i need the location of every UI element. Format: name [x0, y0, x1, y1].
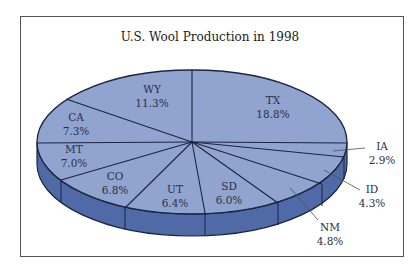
slice-value-ia: 2.9% — [369, 154, 396, 166]
slice-label-co: CO — [107, 170, 124, 182]
pie-chart: U.S. Wool Production in 1998 TX18.8%WY11… — [0, 0, 420, 274]
slice-value-ca: 7.3% — [63, 125, 90, 137]
slice-value-sd: 6.0% — [216, 194, 243, 206]
slice-label-mt: MT — [65, 143, 83, 155]
slice-value-wy: 11.3% — [135, 97, 168, 109]
slice-label-tx: TX — [266, 94, 281, 106]
slice-value-id: 4.3% — [359, 197, 386, 209]
slice-label-ut: UT — [167, 183, 183, 195]
slice-value-mt: 7.0% — [61, 157, 88, 169]
slice-label-sd: SD — [221, 180, 237, 192]
slice-label-ca: CA — [68, 111, 84, 123]
slice-label-id: ID — [366, 183, 379, 195]
chart-title: U.S. Wool Production in 1998 — [121, 30, 299, 44]
slice-value-co: 6.8% — [102, 184, 129, 196]
slice-label-ia: IA — [376, 140, 388, 152]
slice-label-nm: NM — [320, 221, 340, 233]
slice-value-ut: 6.4% — [162, 197, 189, 209]
slice-label-wy: WY — [143, 83, 162, 95]
slice-value-tx: 18.8% — [256, 108, 289, 120]
slice-value-nm: 4.8% — [317, 235, 344, 247]
